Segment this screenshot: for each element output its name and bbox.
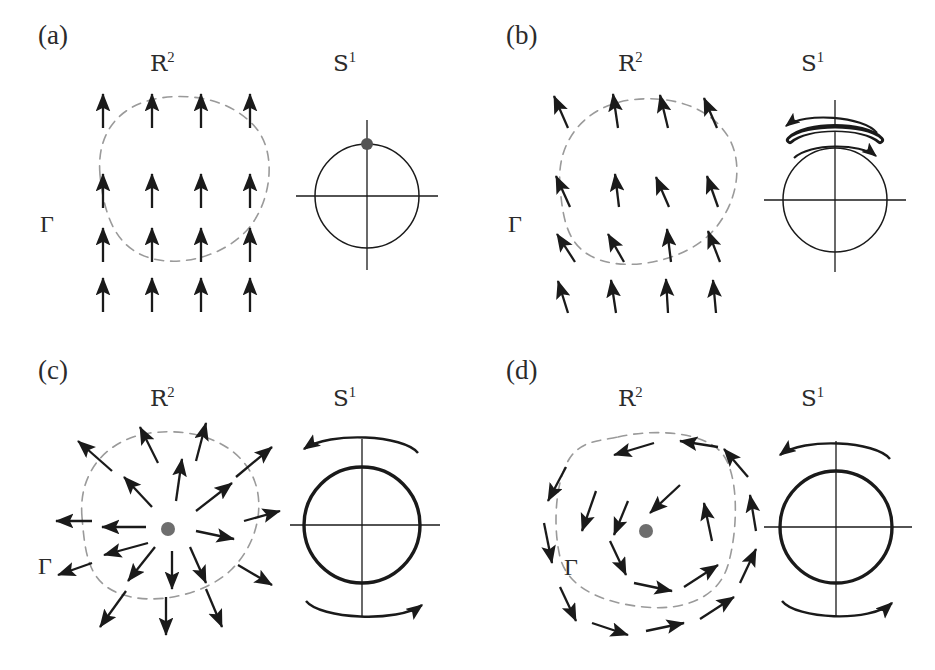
vector-arrow bbox=[557, 234, 575, 262]
vector-arrow bbox=[704, 503, 712, 541]
vector-arrow bbox=[124, 477, 152, 507]
vector-arrow bbox=[196, 531, 234, 539]
vector-arrow bbox=[582, 491, 596, 531]
arc-arrow-right-d bbox=[782, 601, 892, 616]
panel-a: (a) R2 S1 Γ bbox=[0, 0, 467, 335]
vector-arrow bbox=[104, 543, 148, 555]
image-point-marker-a bbox=[361, 138, 373, 150]
vector-arrow bbox=[236, 447, 272, 477]
vector-arrow bbox=[650, 485, 680, 513]
panel-a-graphic bbox=[0, 0, 467, 335]
vector-arrow bbox=[196, 483, 232, 511]
vector-arrow bbox=[554, 96, 568, 128]
panel-d: (d) R2 S1 Γ bbox=[468, 335, 935, 670]
vector-arrow bbox=[556, 176, 570, 207]
vector-arrow bbox=[560, 587, 576, 621]
vector-arrow bbox=[558, 281, 568, 313]
arc-arrow-left-d bbox=[780, 443, 890, 459]
singularity-dot-d bbox=[639, 524, 653, 538]
singularity-dot-c bbox=[161, 522, 175, 536]
vector-arrow bbox=[610, 541, 626, 575]
vector-arrow bbox=[680, 441, 718, 447]
panel-b-graphic bbox=[468, 0, 935, 335]
vector-arrow bbox=[608, 234, 624, 262]
vector-arrow bbox=[700, 597, 734, 619]
vector-arrow bbox=[614, 443, 654, 455]
vector-arrow bbox=[190, 547, 206, 583]
vector-arrow bbox=[684, 565, 718, 587]
vector-arrow bbox=[244, 511, 280, 521]
vector-arrow bbox=[611, 280, 616, 313]
vector-arrow bbox=[704, 98, 717, 128]
vector-arrow bbox=[656, 177, 669, 207]
vector-arrow bbox=[634, 583, 672, 591]
vector-arrow bbox=[713, 280, 716, 313]
gamma-curve-a bbox=[100, 96, 270, 261]
vector-arrow bbox=[238, 565, 272, 585]
vector-arrow bbox=[613, 94, 618, 128]
panel-d-graphic bbox=[468, 335, 935, 670]
gamma-curve-c bbox=[82, 432, 259, 599]
vector-arrow bbox=[78, 441, 112, 471]
vector-arrow bbox=[206, 589, 222, 627]
panel-c: (c) R2 S1 Γ bbox=[0, 335, 467, 670]
vector-arrow bbox=[614, 501, 628, 535]
vector-arrow bbox=[646, 623, 684, 631]
vector-arrow bbox=[128, 547, 155, 581]
vector-arrow bbox=[750, 495, 756, 531]
vector-arrow bbox=[708, 231, 720, 262]
arc-arrow-right-c bbox=[306, 601, 422, 617]
vector-arrow bbox=[544, 523, 552, 563]
vector-arrow bbox=[666, 279, 668, 313]
panel-c-graphic bbox=[0, 335, 467, 670]
vector-arrow bbox=[100, 591, 126, 627]
vector-arrow bbox=[196, 423, 206, 461]
arc-arrow-left-c bbox=[304, 437, 418, 453]
figure-root: (a) R2 S1 Γ bbox=[0, 0, 935, 670]
vector-arrow bbox=[740, 549, 756, 583]
vector-arrow bbox=[548, 467, 566, 501]
vector-arrow bbox=[58, 563, 92, 575]
panel-b: (b) R2 S1 Γ bbox=[468, 0, 935, 335]
vector-arrow bbox=[615, 174, 619, 207]
vector-arrow bbox=[592, 623, 628, 635]
vector-arrow bbox=[176, 459, 182, 501]
vector-arrow bbox=[707, 176, 718, 207]
